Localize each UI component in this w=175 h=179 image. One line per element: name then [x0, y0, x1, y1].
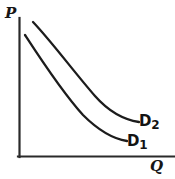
curve-label-d2: D2 — [139, 113, 160, 129]
curve-label-d1-subscript: 1 — [139, 138, 147, 152]
curve-label-d2-subscript: 2 — [151, 118, 159, 132]
curve-label-d1: D1 — [127, 133, 148, 149]
demand-curve-d1 — [25, 35, 127, 141]
demand-curve-figure: P Q D2 D1 — [0, 0, 175, 179]
quantity-axis-label: Q — [150, 159, 163, 174]
curve-label-d1-base: D — [127, 132, 139, 150]
plot-area — [0, 0, 175, 179]
curve-label-d2-base: D — [139, 112, 151, 130]
price-axis-label: P — [5, 6, 16, 21]
